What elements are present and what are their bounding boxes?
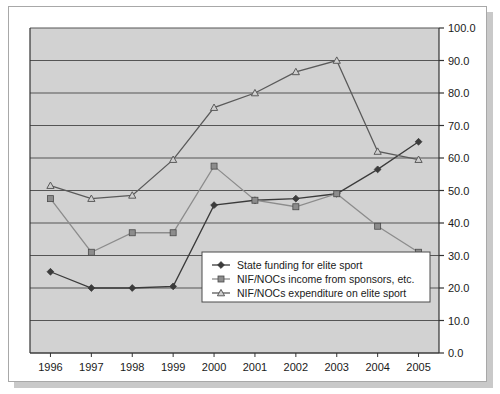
- x-tick-label: 2004: [365, 361, 389, 373]
- y-tick-label: 50.0: [448, 185, 469, 197]
- x-tick-label: 2003: [325, 361, 349, 373]
- y-tick-label: 60.0: [448, 152, 469, 164]
- y-tick-label: 0.0: [448, 347, 463, 359]
- x-tick-label: 1997: [79, 361, 103, 373]
- x-tick-label: 1998: [120, 361, 144, 373]
- figure-card: 0.010.020.030.040.050.060.070.080.090.01…: [8, 6, 487, 382]
- x-tick-label: 1996: [38, 361, 62, 373]
- legend-label: NIF/NOCs income from sponsors, etc.: [237, 273, 414, 285]
- square-icon: [375, 223, 381, 229]
- chart-legend: State funding for elite sportNIF/NOCs in…: [202, 252, 430, 302]
- x-tick-label: 2001: [243, 361, 267, 373]
- square-icon: [252, 197, 258, 203]
- chart-figure: 0.010.020.030.040.050.060.070.080.090.01…: [0, 0, 500, 394]
- y-tick-label: 90.0: [448, 55, 469, 67]
- legend-label: NIF/NOCs expenditure on elite sport: [237, 287, 406, 299]
- square-icon: [293, 204, 299, 210]
- square-icon: [47, 196, 53, 202]
- square-icon: [218, 276, 224, 282]
- legend-label: State funding for elite sport: [237, 259, 363, 271]
- x-tick-label: 1999: [161, 361, 185, 373]
- y-tick-label: 20.0: [448, 282, 469, 294]
- square-icon: [211, 163, 217, 169]
- y-tick-label: 70.0: [448, 120, 469, 132]
- square-icon: [334, 191, 340, 197]
- legend-item: NIF/NOCs income from sponsors, etc.: [212, 273, 414, 285]
- square-icon: [170, 230, 176, 236]
- y-tick-label: 80.0: [448, 87, 469, 99]
- y-axis-ticks: 0.010.020.030.040.050.060.070.080.090.01…: [439, 22, 476, 359]
- x-tick-label: 2000: [202, 361, 226, 373]
- legend-item: NIF/NOCs expenditure on elite sport: [212, 287, 406, 299]
- y-tick-label: 10.0: [448, 315, 469, 327]
- square-icon: [129, 230, 135, 236]
- x-tick-label: 2005: [406, 361, 430, 373]
- x-tick-label: 2002: [284, 361, 308, 373]
- y-tick-label: 30.0: [448, 250, 469, 262]
- x-axis-ticks: 1996199719981999200020012002200320042005: [38, 353, 431, 373]
- line-chart: 0.010.020.030.040.050.060.070.080.090.01…: [9, 7, 486, 381]
- y-tick-label: 40.0: [448, 217, 469, 229]
- square-icon: [88, 249, 94, 255]
- y-tick-label: 100.0: [448, 22, 476, 34]
